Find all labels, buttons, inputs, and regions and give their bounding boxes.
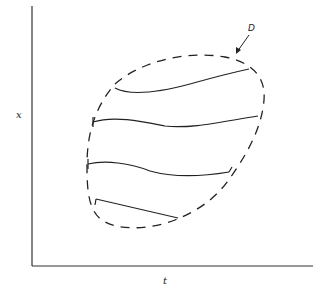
x-axis-label: t xyxy=(163,275,168,286)
curve-2 xyxy=(93,116,258,127)
region-label: D xyxy=(248,23,255,33)
curve-3 xyxy=(88,159,232,176)
y-axis-label: x xyxy=(16,109,22,120)
region-boundary xyxy=(87,55,264,228)
diagram-canvas: x t D xyxy=(0,0,321,298)
region-pointer-arrow xyxy=(236,35,249,54)
curve-1 xyxy=(115,69,249,92)
curve-4 xyxy=(95,199,178,218)
